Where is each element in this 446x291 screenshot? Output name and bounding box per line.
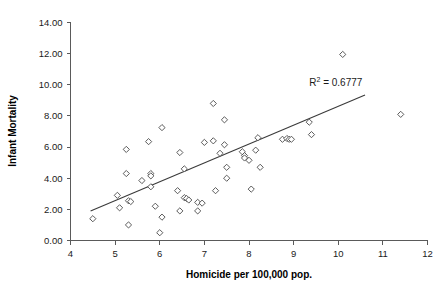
chart-svg: 0.002.004.006.008.0010.0012.0014.00 4567… xyxy=(0,0,446,291)
regression-trendline xyxy=(91,95,365,211)
data-point-marker xyxy=(248,186,254,192)
x-tick-labels-group: 456789101112 xyxy=(68,248,433,259)
x-tick-label: 10 xyxy=(333,248,344,259)
x-tick-label: 5 xyxy=(112,248,117,259)
y-tick-label: 10.00 xyxy=(39,79,63,90)
y-tick-label: 14.00 xyxy=(39,17,63,28)
data-point-marker xyxy=(398,111,404,117)
data-point-marker xyxy=(308,132,314,138)
data-point-marker xyxy=(201,139,207,145)
data-point-marker xyxy=(125,222,131,228)
y-tick-label: 0.00 xyxy=(44,235,63,246)
r-squared-label: R2 = 0.6777 xyxy=(309,76,363,88)
x-tick-label: 12 xyxy=(422,248,433,259)
data-point-marker xyxy=(257,164,263,170)
data-point-marker xyxy=(123,170,129,176)
data-point-marker xyxy=(177,208,183,214)
data-point-marker xyxy=(159,214,165,220)
data-point-marker xyxy=(195,208,201,214)
data-point-marker xyxy=(212,188,218,194)
data-point-marker xyxy=(210,138,216,144)
scatter-chart: 0.002.004.006.008.0010.0012.0014.00 4567… xyxy=(0,0,446,291)
x-axis-title: Homicide per 100,000 pop. xyxy=(186,269,312,280)
data-point-marker xyxy=(152,203,158,209)
data-point-marker xyxy=(114,192,120,198)
data-point-marker xyxy=(116,205,122,211)
y-tick-label: 12.00 xyxy=(39,48,63,59)
r-squared-value: = 0.6777 xyxy=(320,77,362,88)
data-point-marker xyxy=(221,117,227,123)
data-point-marker xyxy=(90,216,96,222)
data-point-marker xyxy=(221,142,227,148)
data-point-marker xyxy=(210,100,216,106)
data-point-marker xyxy=(177,149,183,155)
x-tick-label: 7 xyxy=(202,248,207,259)
x-tick-label: 4 xyxy=(68,248,73,259)
y-tick-labels-group: 0.002.004.006.008.0010.0012.0014.00 xyxy=(39,17,63,246)
data-point-marker xyxy=(157,230,163,236)
data-point-marker xyxy=(145,139,151,145)
y-tick-label: 2.00 xyxy=(44,204,63,215)
r-squared-symbol: R xyxy=(309,77,316,88)
x-tick-label: 6 xyxy=(157,248,162,259)
data-point-marker xyxy=(139,177,145,183)
x-tick-label: 11 xyxy=(378,248,388,259)
y-tick-label: 4.00 xyxy=(44,173,63,184)
data-point-marker xyxy=(224,164,230,170)
y-tick-label: 6.00 xyxy=(44,141,63,152)
data-point-marker xyxy=(123,146,129,152)
tick-marks-group xyxy=(67,23,428,245)
data-point-marker xyxy=(175,188,181,194)
r-squared-annotation-group: R2 = 0.6777 xyxy=(309,76,363,88)
data-point-marker xyxy=(340,51,346,57)
regression-trendline-group xyxy=(91,95,365,211)
data-point-marker xyxy=(253,147,259,153)
x-tick-label: 9 xyxy=(291,248,296,259)
data-point-marker xyxy=(255,135,261,141)
axes-group xyxy=(71,23,428,241)
data-point-marker xyxy=(159,125,165,131)
y-axis-title: Infant Mortality xyxy=(7,95,18,167)
y-tick-label: 8.00 xyxy=(44,110,63,121)
data-point-marker xyxy=(224,175,230,181)
x-tick-label: 8 xyxy=(246,248,251,259)
data-point-marker xyxy=(181,166,187,172)
